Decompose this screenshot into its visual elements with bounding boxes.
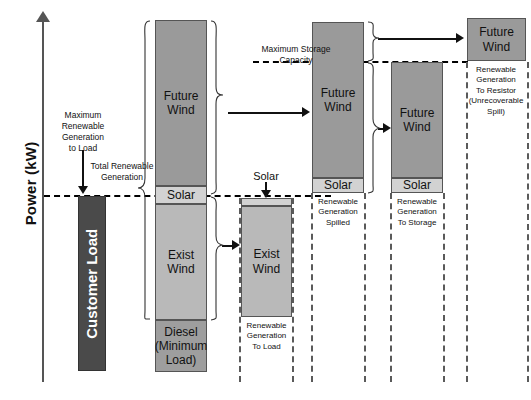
annotation-solar-callout-a: Solar <box>240 170 292 182</box>
y-axis-line <box>42 18 44 382</box>
exist-wind-label: Exist Wind <box>242 247 291 275</box>
future-wind-label: FutureWind <box>400 106 435 134</box>
bar-total-exist-wind[interactable]: Exist Wind <box>155 204 207 320</box>
bar-total-diesel[interactable]: Diesel(MinimumLoad) <box>155 320 207 372</box>
column-divider-3-right <box>292 198 294 382</box>
annotation-total-renewable-generation: Total RenewableGeneration <box>88 161 156 183</box>
arrow-max-renewable-shaft <box>82 150 84 188</box>
future-wind-label: FutureWind <box>164 89 199 117</box>
customer-load-label: Customer Load <box>83 228 101 338</box>
arrow-total-to-spilled-head <box>302 107 310 117</box>
caption-renewable-spilled: RenewableGenerationSpilled <box>312 197 364 228</box>
bar-to-load-exist-wind[interactable]: Exist Wind <box>241 206 292 317</box>
diagram-canvas: Power (kW) Customer Load FutureWind Sola… <box>0 0 531 400</box>
bar-storage-future-wind[interactable]: FutureWind <box>391 62 443 178</box>
brace-total-lower-right <box>211 197 222 320</box>
caption-renewable-to-storage: RenewableGenerationTo Storage <box>391 197 443 228</box>
bar-resistor-future-wind[interactable]: FutureWind <box>467 18 526 61</box>
y-axis-label: Power (kW) <box>22 114 39 254</box>
column-divider-4-right <box>364 193 366 382</box>
bar-total-future-wind[interactable]: FutureWind <box>155 20 207 186</box>
annotation-maximum-storage-capacity: Maximum StorageCapacity <box>250 44 342 66</box>
arrow-max-renewable-head <box>78 186 88 194</box>
column-divider-5-right <box>443 193 445 382</box>
arrow-spilled-to-storage-head <box>383 123 391 133</box>
arrow-solar-callout-head <box>261 190 271 198</box>
caption-renewable-to-resistor: RenewableGenerationTo Resistor(Unrecover… <box>464 65 528 117</box>
arrow-total-to-spilled-shaft <box>228 112 304 114</box>
future-wind-label: FutureWind <box>321 86 356 114</box>
arrow-total-to-load-head <box>232 240 240 250</box>
solar-label: Solar <box>403 178 431 192</box>
caption-renewable-to-load: RenewableGenerationTo Load <box>241 321 292 352</box>
brace-total-upper-right <box>211 21 223 194</box>
bar-customer-load[interactable]: Customer Load <box>78 196 106 371</box>
future-wind-label: FutureWind <box>479 25 514 53</box>
solar-label: Solar <box>167 188 195 202</box>
exist-wind-label: Exist Wind <box>156 248 206 276</box>
arrow-spilled-to-resistor-shaft <box>378 38 458 40</box>
diesel-label: Diesel(MinimumLoad) <box>155 325 208 367</box>
arrow-spilled-to-resistor-head <box>456 33 464 43</box>
solar-label: Solar <box>324 178 352 192</box>
bar-total-solar[interactable]: Solar <box>155 186 207 204</box>
brace-spilled-upper-right <box>368 22 379 61</box>
bar-to-load-solar[interactable] <box>241 198 292 206</box>
annotation-max-renewable-to-load: MaximumRenewableGenerationto Load <box>48 110 118 154</box>
bar-storage-solar[interactable]: Solar <box>391 178 443 193</box>
bar-spilled-solar[interactable]: Solar <box>312 178 364 193</box>
